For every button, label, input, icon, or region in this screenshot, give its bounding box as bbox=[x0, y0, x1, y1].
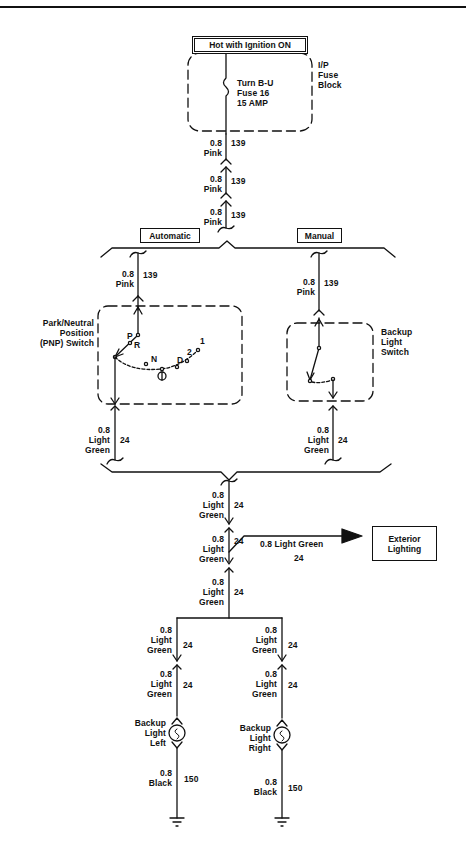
wire-gauge-color: 0.8 Light Green bbox=[184, 490, 224, 520]
wire-gauge-color: 0.8 Pink bbox=[190, 207, 222, 227]
wire-circuit: 24 bbox=[234, 587, 244, 597]
wire-gauge-color: 0.8 Light Green bbox=[70, 425, 110, 455]
wire-circuit: 24 bbox=[288, 680, 298, 690]
exterior-wire-label: 0.8 Light Green bbox=[260, 539, 323, 549]
wire-gauge-color: 0.8 Light Green bbox=[289, 425, 329, 455]
manual-label: Manual bbox=[305, 231, 334, 241]
lower-brace bbox=[101, 464, 391, 480]
wire-circuit: 139 bbox=[231, 138, 245, 148]
wire-gauge-color: 0.8 Pink bbox=[281, 277, 315, 297]
exterior-wire-circuit: 24 bbox=[294, 553, 304, 563]
wire-circuit: 24 bbox=[183, 680, 193, 690]
exterior-arrowhead bbox=[342, 529, 362, 543]
wire-gauge-color: 0.8 Pink bbox=[190, 174, 222, 194]
wire-gauge-color: 0.8 Light Green bbox=[237, 669, 277, 699]
pnp-pos-D: D bbox=[177, 355, 183, 365]
wire-gauge-color: 0.8 Pink bbox=[190, 138, 222, 158]
pnp-pos-P: P bbox=[127, 331, 133, 341]
fuse-block-label: I/P Fuse Block bbox=[318, 60, 342, 90]
wire-gauge-color: 0.8 Light Green bbox=[132, 625, 172, 655]
wire-circuit: 139 bbox=[143, 270, 157, 280]
wire-gauge-color: 0.8 Black bbox=[237, 777, 277, 797]
pnp-pos-2: 2 bbox=[187, 347, 192, 357]
backup-switch-outline bbox=[287, 323, 373, 401]
fuse-symbol bbox=[224, 43, 229, 134]
pnp-pos-1: 1 bbox=[200, 336, 205, 346]
fuse-text: Turn B-U Fuse 16 15 AMP bbox=[237, 78, 274, 108]
wire-circuit: 24 bbox=[234, 500, 244, 510]
power-source-label: Hot with Ignition ON bbox=[209, 40, 291, 50]
wire-circuit: 24 bbox=[234, 536, 244, 546]
wire-gauge-color: 0.8 Light Green bbox=[184, 534, 224, 564]
wire-gauge-color: 0.8 Light Green bbox=[184, 577, 224, 607]
wire-circuit: 24 bbox=[120, 435, 130, 445]
pnp-pos-N: N bbox=[151, 354, 157, 364]
pnp-pos-R: R bbox=[134, 340, 140, 350]
wire-gauge-color: 0.8 Light Green bbox=[132, 669, 172, 699]
wire-circuit: 139 bbox=[324, 278, 338, 288]
manual-box: Manual bbox=[297, 228, 342, 243]
wire-gauge-color: 0.8 Black bbox=[132, 768, 172, 788]
automatic-box: Automatic bbox=[140, 228, 200, 243]
backup-light-left-label: Backup Light Left bbox=[120, 718, 166, 748]
wire-circuit: 24 bbox=[288, 640, 298, 650]
wire-gauge-color: 0.8 Light Green bbox=[237, 625, 277, 655]
backup-light-right-label: Backup Light Right bbox=[221, 723, 271, 753]
upper-brace bbox=[101, 241, 395, 257]
pnp-switch-label: Park/Neutral Position (PNP) Switch bbox=[20, 318, 94, 348]
exterior-lighting-label: Exterior Lighting bbox=[388, 534, 422, 554]
wire-circuit: 24 bbox=[183, 640, 193, 650]
power-source-box: Hot with Ignition ON bbox=[192, 36, 308, 54]
backup-switch-label: Backup Light Switch bbox=[381, 327, 412, 357]
wire-circuit: 150 bbox=[184, 774, 198, 784]
wire-circuit: 139 bbox=[231, 176, 245, 186]
automatic-label: Automatic bbox=[149, 231, 191, 241]
wire-circuit: 24 bbox=[338, 435, 348, 445]
wire-gauge-color: 0.8 Pink bbox=[100, 269, 134, 289]
wire-circuit: 139 bbox=[231, 210, 245, 220]
wire-circuit: 150 bbox=[288, 783, 302, 793]
exterior-lighting-box: Exterior Lighting bbox=[372, 526, 437, 561]
